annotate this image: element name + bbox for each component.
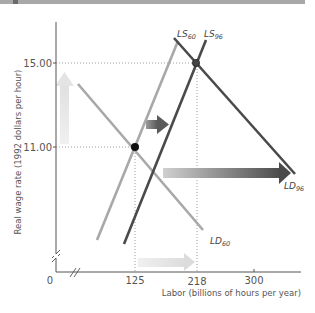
- labor-increase-arrow: [138, 253, 195, 271]
- x-axis-label: Labor (billions of hours per year): [162, 288, 301, 298]
- ls96-label: LS96: [204, 29, 223, 41]
- wage-increase-arrow: [55, 72, 74, 144]
- x-tick-0: 0: [47, 275, 53, 286]
- demand-shift-arrow: [163, 162, 291, 184]
- axes: [53, 22, 301, 272]
- ld60-curve: [78, 84, 203, 230]
- x-tick-125: 125: [125, 275, 144, 286]
- curves: [78, 38, 295, 244]
- equilibrium-point-1960: [131, 143, 139, 151]
- equilibrium-point-1996: [192, 59, 199, 66]
- supply-shift-arrow: [146, 115, 169, 134]
- x-tick-300: 300: [244, 275, 263, 286]
- y-tick-11: 11.00: [23, 142, 52, 153]
- ls60-label: LS60: [177, 29, 196, 41]
- y-axis-label: Real wage rate (1992 dollars per hour): [13, 70, 23, 235]
- ld60-label: LD60: [210, 236, 230, 248]
- x-tick-218: 218: [187, 276, 206, 287]
- ld96-label: LD96: [284, 181, 304, 193]
- labor-market-chart: 15.00 11.00 0 125 218 300 Labor (billion…: [0, 0, 315, 313]
- y-tick-15: 15.00: [23, 58, 52, 69]
- ld96-curve: [174, 38, 295, 174]
